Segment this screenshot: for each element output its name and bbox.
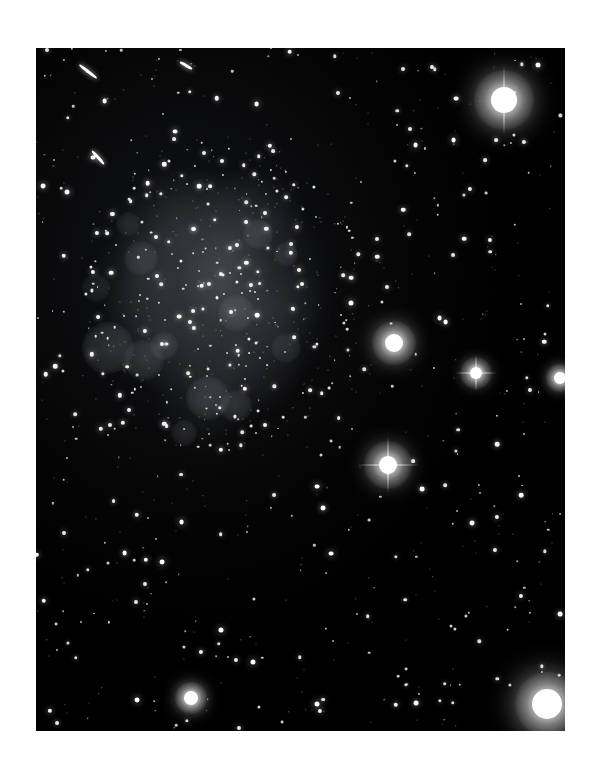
star-point [304,383,305,384]
star-point [154,86,155,87]
star-point [284,351,286,353]
star-point [206,375,208,377]
star-point [127,408,131,412]
hii-region [271,333,301,363]
star-point [369,373,370,374]
bright-star-core [532,689,562,719]
star-point [43,217,44,218]
star-point [246,333,247,334]
star-point [350,201,353,204]
star-point [177,92,180,95]
star-point [504,144,505,145]
star-point [158,58,160,60]
star-point [251,660,256,665]
star-point [453,627,456,630]
star-point [148,316,149,317]
star-point [320,308,321,309]
star-point [124,341,125,342]
star-point [426,507,427,508]
star-point [418,686,419,687]
star-point [248,352,250,354]
star-point [454,130,455,131]
star-point [317,275,318,276]
diffraction-spike-horizontal [455,372,497,374]
star-point [398,287,400,289]
star-point [165,342,168,345]
star-point [247,235,248,236]
star-point [523,587,525,589]
star-point [199,649,203,653]
star-point [340,267,341,268]
star-point [542,339,547,344]
star-point [442,440,443,441]
star-point [133,355,134,356]
star-point [86,70,88,72]
star-point [432,576,434,578]
star-point [165,279,166,280]
star-point [306,183,307,184]
star-point [222,274,225,277]
star-point [541,671,543,673]
star-point [164,439,166,441]
star-point [309,388,313,392]
star-point [328,369,329,370]
star-point [434,198,435,199]
star-point [220,159,224,163]
star-point [166,582,168,584]
star-point [462,193,465,196]
star-point [288,711,289,712]
star-point [63,182,64,183]
star-point [476,368,480,372]
star-point [389,322,392,325]
star-point [154,251,155,252]
star-point [194,65,195,66]
star-point [340,314,342,316]
star-point [345,319,347,321]
star-point [220,683,221,684]
star-point [225,429,226,430]
star-point [489,250,493,254]
star-point [312,710,313,711]
star-point [454,96,459,101]
star-point [449,624,452,627]
star-point [258,399,260,401]
star-point [475,541,476,542]
star-point [275,206,276,207]
star-point [233,251,234,252]
star-point [74,656,78,660]
star-point [255,432,257,434]
star-point [194,165,196,167]
star-point [178,573,180,575]
star-point [193,253,195,255]
star-point [219,533,223,537]
diffraction-spike-vertical [387,437,389,492]
bright-star-core [470,367,482,379]
star-point [162,162,167,167]
star-point [125,233,126,234]
star-point [273,385,276,388]
star-point [315,216,317,218]
star-point [255,342,258,345]
star-point [304,670,305,671]
star-point [302,692,303,693]
star-point [302,221,303,222]
star-point [517,242,518,243]
star-point [202,239,203,240]
star-point [549,291,550,292]
star-point [206,179,207,180]
star-point [370,721,371,722]
star-point [266,364,268,366]
star-point [101,331,104,334]
star-point [428,436,429,437]
star-point [175,444,176,445]
star-point [342,321,345,324]
star-point [172,137,176,141]
star-point [496,254,497,255]
star-point [173,129,178,134]
star-point [281,721,284,724]
star-point [175,724,178,727]
star-point [243,386,247,390]
star-point [66,457,68,459]
star-point [377,261,378,262]
star-point [61,253,66,258]
